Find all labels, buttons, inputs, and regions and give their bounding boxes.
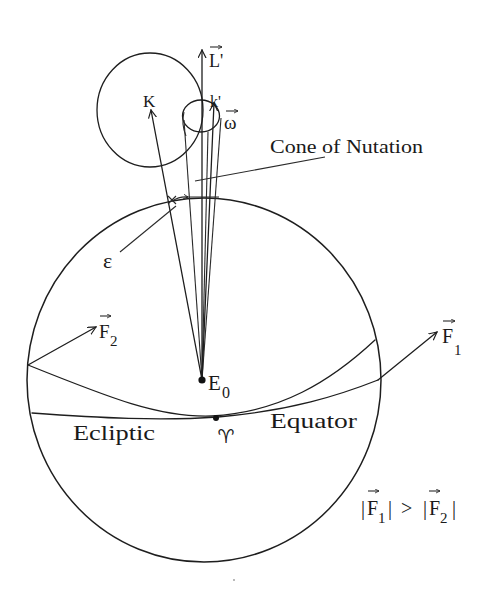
cone-of-nutation-label: Cone of Nutation: [270, 136, 424, 157]
K-axis-vector: [151, 110, 202, 380]
inequality-sub-2: 2: [440, 510, 448, 526]
F1-force-vector: [378, 332, 437, 380]
inequality-bar-3: |: [423, 497, 427, 520]
vernal-equinox-label: ♈: [217, 425, 234, 447]
epsilon-label: ε: [103, 248, 112, 273]
image-speck: [233, 579, 235, 581]
earth-center-point: [198, 376, 205, 383]
force-magnitude-inequality: | F 1 | > | F 2 |: [361, 491, 456, 526]
E0-label: E: [208, 371, 221, 395]
F2-subscript: 2: [110, 333, 118, 349]
K-label: K: [143, 92, 156, 111]
inequality-bar-4: |: [452, 497, 456, 520]
inequality-sub-1: 1: [378, 510, 386, 526]
epsilon-pointer: [120, 206, 176, 252]
F2-label: F: [99, 321, 110, 342]
equator-label: Equator: [270, 408, 358, 433]
inequality-bar-2: |: [388, 497, 392, 520]
F1-label: F: [442, 325, 453, 347]
ecliptic-label: Ecliptic: [73, 420, 155, 445]
omega-label: ω: [224, 112, 237, 133]
nutation-diagram: L' K k' ω Cone of Nutation ε F 2 F 1 E 0…: [0, 0, 484, 591]
E0-subscript: 0: [222, 384, 230, 401]
L-prime-label: L': [209, 51, 223, 71]
F1-subscript: 1: [454, 342, 462, 358]
inequality-relation: >: [401, 497, 412, 519]
k-prime-label: k': [210, 93, 221, 110]
F2-force-vector: [28, 327, 96, 365]
vernal-equinox-point: [213, 415, 219, 421]
inequality-bar-1: |: [361, 497, 365, 520]
inequality-F1: F: [367, 497, 378, 519]
cone-label-pointer: [195, 157, 325, 181]
inequality-F2: F: [429, 497, 440, 519]
